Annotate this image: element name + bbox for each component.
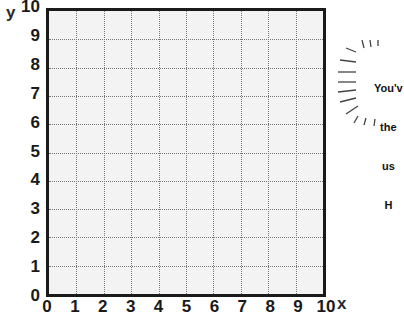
y-tick-label: 3 <box>14 200 40 218</box>
callout-burst: You'v the us H <box>336 40 404 140</box>
gridline-horizontal <box>49 181 323 182</box>
x-tick-label: 9 <box>285 298 311 316</box>
gridline-horizontal <box>49 266 323 267</box>
gridline-horizontal <box>49 209 323 210</box>
x-tick-label: 8 <box>257 298 283 316</box>
y-tick-label: 6 <box>14 114 40 132</box>
x-tick-label: 4 <box>146 298 172 316</box>
gridline-horizontal <box>49 153 323 154</box>
gridline-horizontal <box>49 237 323 238</box>
gridline-horizontal <box>49 124 323 125</box>
y-tick-label: 7 <box>14 85 40 103</box>
y-tick-label: 8 <box>14 56 40 74</box>
callout-line: the <box>374 121 403 134</box>
y-tick-label: 10 <box>14 0 40 16</box>
x-tick-label: 2 <box>90 298 116 316</box>
coordinate-grid <box>46 8 326 297</box>
gridline-horizontal <box>49 68 323 69</box>
y-tick-label: 9 <box>14 27 40 45</box>
x-tick-label: 6 <box>201 298 227 316</box>
y-tick-label: 2 <box>14 229 40 247</box>
y-tick-label: 4 <box>14 171 40 189</box>
y-tick-label: 5 <box>14 143 40 161</box>
callout-text: You'v the us H <box>374 56 403 238</box>
x-tick-label: 5 <box>174 298 200 316</box>
x-tick-label: 10 <box>313 298 339 316</box>
x-tick-label: 3 <box>118 298 144 316</box>
callout-line: You'v <box>374 82 403 95</box>
callout-line: us <box>374 160 403 173</box>
y-tick-label: 1 <box>14 258 40 276</box>
gridline-horizontal <box>49 96 323 97</box>
x-tick-label: 1 <box>62 298 88 316</box>
x-tick-label: 0 <box>34 298 60 316</box>
x-tick-label: 7 <box>229 298 255 316</box>
callout-line: H <box>374 199 403 212</box>
gridline-horizontal <box>49 39 323 40</box>
